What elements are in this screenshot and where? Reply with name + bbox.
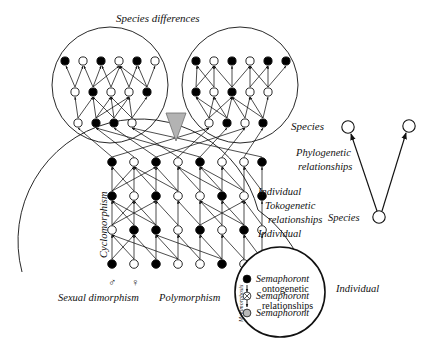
figure-root: Species differences Species Phylogenetic… <box>0 0 431 345</box>
label-species-right: Species <box>291 120 324 132</box>
label-cyclomorphism: Cyclomorphism <box>98 192 110 259</box>
legend-row-2-italic: Semaphoront <box>256 307 309 318</box>
legend-marker-filled <box>243 275 251 283</box>
label-individual-lower: Individual <box>258 228 301 240</box>
label-tokogenetic-line2: relationships <box>268 214 322 226</box>
female-symbol: ♀ <box>131 276 139 288</box>
ancestor-node <box>373 211 385 223</box>
male-symbol: ♂ <box>108 276 116 288</box>
label-phylogenetic-relationships-line2: relationships <box>298 161 352 173</box>
label-individual-far-right: Individual <box>336 283 379 295</box>
node-group <box>61 57 415 268</box>
species-node-right <box>403 120 415 132</box>
phylo-branch-right <box>382 133 406 211</box>
label-polymorphism: Polymorphism <box>159 292 220 304</box>
phylo-branch-left <box>351 134 377 211</box>
right-species-circle <box>182 27 298 143</box>
phylogeny-edge-group <box>351 133 406 211</box>
label-phylogenetic-relationships-line1: Phylogenetic <box>296 147 351 159</box>
label-tokogenetic-line1: Tokogenetic <box>265 200 315 212</box>
label-sexual-dimorphism: Sexual dimorphism <box>58 292 139 304</box>
label-species-mid: Species <box>328 212 360 224</box>
label-individual-upper: Individual <box>258 186 301 198</box>
species-node-left <box>342 121 354 133</box>
title-species-differences: Species differences <box>116 12 200 24</box>
legend-vertical-label: Metamorphosis <box>238 285 245 322</box>
